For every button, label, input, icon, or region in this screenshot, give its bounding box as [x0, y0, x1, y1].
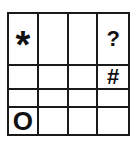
cell-r1-c2[interactable]: [69, 66, 99, 90]
cell-r3-c1[interactable]: [39, 108, 69, 134]
cell-r1-c1[interactable]: [39, 66, 69, 90]
cell-r2-c1[interactable]: [39, 90, 69, 108]
cell-r0-c3[interactable]: ?: [98, 14, 128, 66]
cell-r3-c3[interactable]: [98, 108, 128, 134]
cell-r3-c2[interactable]: [69, 108, 99, 134]
puzzle-grid: * ? # O: [7, 12, 130, 136]
cell-r2-c3[interactable]: [98, 90, 128, 108]
cell-r0-c1[interactable]: [39, 14, 69, 66]
cell-r1-c0[interactable]: [9, 66, 39, 90]
cell-r0-c0[interactable]: *: [9, 14, 39, 66]
cell-r0-c2[interactable]: [69, 14, 99, 66]
cell-r1-c3[interactable]: #: [98, 66, 128, 90]
cell-r2-c2[interactable]: [69, 90, 99, 108]
cell-r3-c0[interactable]: O: [9, 108, 39, 134]
